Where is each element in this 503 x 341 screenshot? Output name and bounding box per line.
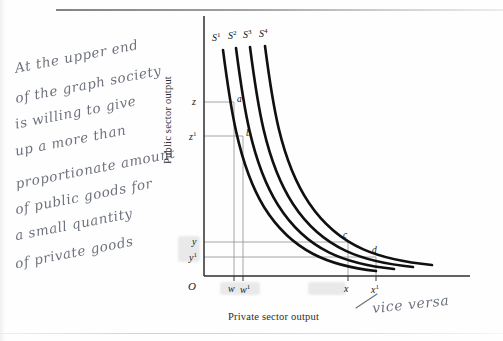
point-label-a: a	[237, 94, 242, 104]
y-axis-title: Public sector output	[162, 76, 173, 164]
y-tick-z: z	[192, 96, 196, 107]
chart-canvas	[180, 14, 480, 324]
curve-s4	[265, 46, 432, 265]
x-tick-w1: w1	[240, 283, 250, 295]
x-tick-w: w	[228, 283, 235, 294]
point-label-c: c	[343, 230, 347, 240]
curves	[223, 46, 432, 271]
x-tick-x1: x1	[371, 283, 379, 295]
curve-label-s3: S3	[243, 28, 252, 40]
curve-s1	[223, 50, 376, 271]
indifference-curve-chart: S1 S2 S3 S4 a b c d z z1 y y1 w	[180, 14, 480, 324]
curve-label-s4: S4	[259, 27, 268, 39]
curve-label-s1: S1	[212, 31, 221, 43]
curve-s3	[250, 47, 413, 267]
scan-artifact-top-line	[56, 9, 503, 11]
page-edge-shadow	[0, 0, 6, 341]
point-label-d: d	[372, 245, 377, 255]
x-tick-x: x	[344, 283, 348, 294]
axes	[204, 16, 470, 276]
origin-label: O	[188, 280, 196, 292]
y-tick-z1: z1	[189, 130, 196, 142]
guide-lines	[204, 102, 376, 276]
curve-label-s2: S2	[228, 29, 237, 41]
y-tick-y1: y1	[189, 251, 197, 263]
curve-s2	[236, 48, 394, 269]
scanned-page: At the upper end of the graph society is…	[0, 0, 503, 341]
x-axis-title: Private sector output	[228, 311, 319, 322]
scan-artifact-bottom-line	[0, 333, 503, 334]
point-label-b: b	[246, 128, 251, 138]
y-tick-y: y	[192, 236, 196, 247]
